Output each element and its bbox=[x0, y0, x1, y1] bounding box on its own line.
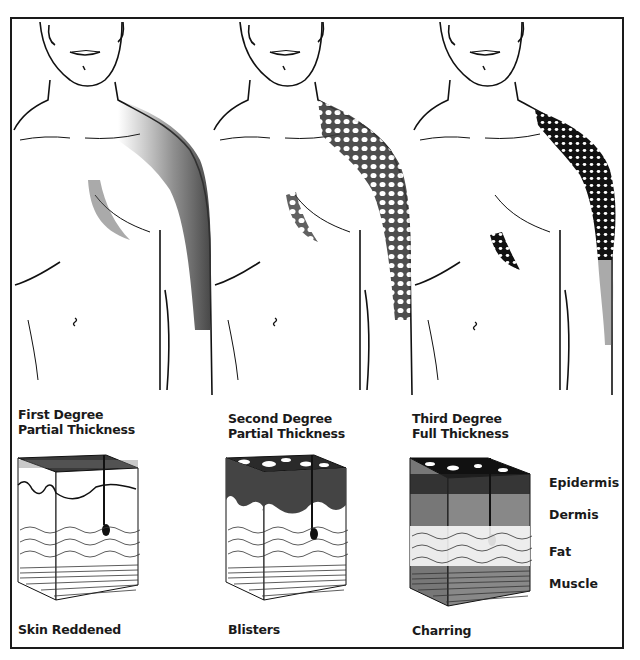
title-line-1: First Degree bbox=[18, 407, 135, 422]
layer-label-epidermis: Epidermis bbox=[549, 475, 619, 490]
title-line-1: Second Degree bbox=[228, 411, 345, 426]
layer-label-dermis: Dermis bbox=[549, 507, 599, 522]
second-degree-blister-area bbox=[318, 100, 411, 320]
title-line-2: Partial Thickness bbox=[228, 426, 345, 441]
third-degree-char-area bbox=[535, 110, 616, 260]
third-degree-caption: Charring bbox=[412, 623, 471, 638]
second-degree-title: Second Degree Partial Thickness bbox=[228, 411, 345, 441]
title-line-2: Full Thickness bbox=[412, 426, 509, 441]
figure-third-degree bbox=[414, 22, 612, 395]
title-line-1: Third Degree bbox=[412, 411, 509, 426]
first-degree-title: First Degree Partial Thickness bbox=[18, 407, 135, 437]
third-degree-title: Third Degree Full Thickness bbox=[412, 411, 509, 441]
second-degree-skin-block bbox=[224, 450, 349, 610]
layer-label-muscle: Muscle bbox=[549, 576, 598, 591]
first-degree-skin-block bbox=[16, 450, 141, 610]
third-degree-skin-block bbox=[408, 456, 533, 616]
layer-label-fat: Fat bbox=[549, 544, 571, 559]
second-degree-caption: Blisters bbox=[228, 622, 280, 637]
title-line-2: Partial Thickness bbox=[18, 422, 135, 437]
first-degree-caption: Skin Reddened bbox=[18, 622, 121, 637]
torso-figures bbox=[0, 0, 640, 400]
first-degree-burn-area bbox=[118, 100, 211, 330]
